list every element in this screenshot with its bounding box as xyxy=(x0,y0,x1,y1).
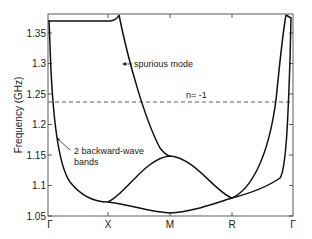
spurious-arrowhead-icon xyxy=(122,62,126,66)
band-gamma-x xyxy=(49,20,108,202)
x-axis xyxy=(108,14,232,216)
xtick-X: X xyxy=(105,219,112,230)
xtick-M: M xyxy=(166,219,174,230)
spurious-mode-top xyxy=(49,15,119,21)
ytick-1.3: 1.3 xyxy=(32,58,46,69)
band-upper-hump xyxy=(108,156,232,202)
ytick-1.1: 1.1 xyxy=(32,180,46,191)
ytick-1.25: 1.25 xyxy=(27,89,47,100)
n-minus-one-label: n= -1 xyxy=(186,90,207,100)
xtick-gamma-end: Γ xyxy=(290,219,296,230)
y-axis-label: Frequency (GHz) xyxy=(13,77,24,154)
plot-frame xyxy=(48,14,293,216)
ytick-1.05: 1.05 xyxy=(27,211,47,222)
band-r-gamma-1 xyxy=(232,15,286,198)
xtick-R: R xyxy=(228,219,235,230)
x-tick-labels: Γ X M R Γ xyxy=(47,219,296,230)
band-diagram-chart: 1.05 1.1 1.15 1.2 1.25 1.3 1.35 Γ X M R … xyxy=(0,0,312,239)
band-lower xyxy=(108,198,232,213)
ytick-1.2: 1.2 xyxy=(32,119,46,130)
y-tick-labels: 1.05 1.1 1.15 1.2 1.25 1.3 1.35 xyxy=(27,28,47,222)
ytick-1.15: 1.15 xyxy=(27,150,47,161)
backward-wave-label-line2: bands xyxy=(74,157,99,167)
backward-wave-label-line1: 2 backward-wave xyxy=(74,146,144,156)
ytick-1.35: 1.35 xyxy=(27,28,47,39)
spurious-mode xyxy=(119,15,170,156)
xtick-gamma-start: Γ xyxy=(47,219,53,230)
spurious-mode-label: spurious mode xyxy=(134,59,193,69)
backward-arrow xyxy=(58,139,70,150)
